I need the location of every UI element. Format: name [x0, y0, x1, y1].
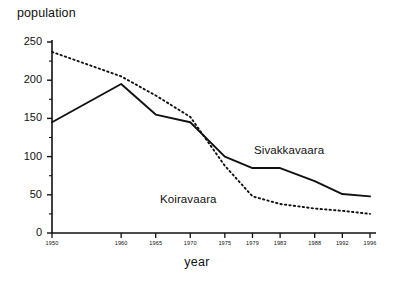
series-line-koiravaara	[52, 52, 370, 214]
y-tick-label: 250	[10, 36, 42, 47]
x-tick-label: 1950	[32, 240, 72, 247]
y-tick-label: 200	[10, 74, 42, 85]
x-axis-title: year	[0, 255, 394, 269]
series-annotation-sivakkavaara: Sivakkavaara	[254, 144, 324, 156]
series-line-sivakkavaara	[52, 84, 370, 196]
y-tick-label: 100	[10, 151, 42, 162]
y-tick-label: 0	[10, 227, 42, 238]
x-tick-label: 1996	[350, 240, 390, 247]
y-tick-label: 150	[10, 112, 42, 123]
y-tick-label: 50	[10, 189, 42, 200]
series-annotation-koiravaara: Koiravaara	[160, 193, 217, 205]
chart-figure: population 050100150200250 1950196019651…	[0, 0, 394, 288]
x-axis-ticks	[52, 233, 370, 238]
